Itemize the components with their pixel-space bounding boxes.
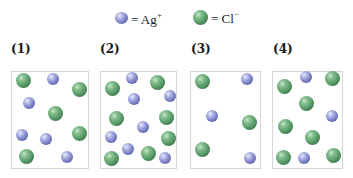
ag-ion-blue-sphere-icon xyxy=(244,152,256,164)
ag-ion-blue-sphere-icon xyxy=(47,73,59,85)
legend-cl-label: = Cl− xyxy=(211,8,239,26)
ag-ion-blue-sphere-icon xyxy=(61,151,73,163)
cl-ion-green-sphere-icon xyxy=(48,106,63,121)
legend-ag-label: = Ag+ xyxy=(131,9,162,27)
legend-cl: = Cl− xyxy=(193,8,239,26)
ag-ion-blue-sphere-icon xyxy=(105,131,117,143)
ag-ion-blue-sphere-icon xyxy=(326,110,338,122)
ag-ion-blue-sphere-icon xyxy=(40,133,52,145)
ag-ion-blue-sphere-icon xyxy=(241,73,253,85)
cl-ion-green-sphere-icon xyxy=(276,150,291,165)
ag-ion-blue-sphere-icon xyxy=(298,152,310,164)
ag-ion-blue-sphere-icon xyxy=(300,71,312,83)
cl-ion-green-sphere-icon xyxy=(325,71,340,86)
ag-ion-blue-sphere-icon xyxy=(164,90,176,102)
panel-2-label: (2) xyxy=(100,42,120,56)
cl-ion-green-sphere-icon xyxy=(277,79,292,94)
ag-ion-blue-sphere-icon xyxy=(128,93,140,105)
panel-4-label: (4) xyxy=(273,42,293,56)
cl-ion-green-sphere-icon xyxy=(105,81,120,96)
panel-3-label: (3) xyxy=(191,42,211,56)
ag-ion-blue-sphere-icon xyxy=(122,143,134,155)
ag-ion-blue-sphere-icon xyxy=(206,110,218,122)
ag-ion-blue-sphere-icon xyxy=(16,129,28,141)
cl-ion-green-sphere-icon xyxy=(305,130,320,145)
cl-ion-green-sphere-icon xyxy=(104,151,119,166)
legend-ag: = Ag+ xyxy=(115,9,162,27)
cl-ion-green-sphere-icon xyxy=(278,119,293,134)
blue-sphere-icon xyxy=(115,12,128,24)
cl-ion-green-sphere-icon xyxy=(161,131,176,146)
ag-ion-blue-sphere-icon xyxy=(137,121,149,133)
cl-ion-green-sphere-icon xyxy=(195,74,210,89)
cl-ion-green-sphere-icon xyxy=(16,73,31,88)
cl-ion-green-sphere-icon xyxy=(242,115,257,130)
cl-ion-green-sphere-icon xyxy=(326,148,341,163)
cl-ion-green-sphere-icon xyxy=(195,142,210,157)
cl-ion-green-sphere-icon xyxy=(72,126,87,141)
cl-ion-green-sphere-icon xyxy=(141,146,156,161)
cl-ion-green-sphere-icon xyxy=(72,82,87,97)
cl-ion-green-sphere-icon xyxy=(159,110,174,125)
cl-ion-green-sphere-icon xyxy=(150,75,165,90)
panel-1-label: (1) xyxy=(11,42,31,56)
ag-ion-blue-sphere-icon xyxy=(126,72,138,84)
ag-ion-blue-sphere-icon xyxy=(23,97,35,109)
cl-ion-green-sphere-icon xyxy=(19,149,34,164)
cl-ion-green-sphere-icon xyxy=(299,96,314,111)
green-sphere-icon xyxy=(193,10,208,25)
ag-ion-blue-sphere-icon xyxy=(159,152,171,164)
cl-ion-green-sphere-icon xyxy=(109,111,124,126)
